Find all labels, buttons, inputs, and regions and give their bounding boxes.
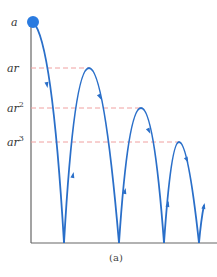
- ball: [27, 16, 39, 28]
- arrow-up-icon: [201, 203, 206, 210]
- label-ar: ar: [7, 62, 20, 75]
- bouncing-ball-diagram: a ar ar2 ar3 (a): [0, 0, 217, 277]
- label-ar3: ar3: [7, 134, 24, 149]
- label-a: a: [11, 16, 18, 29]
- arrow-up-icon: [70, 172, 75, 179]
- label-ar2: ar2: [7, 100, 24, 115]
- arrow-down-icon: [45, 82, 50, 89]
- figure-caption: (a): [109, 252, 123, 263]
- trajectory: [33, 22, 204, 243]
